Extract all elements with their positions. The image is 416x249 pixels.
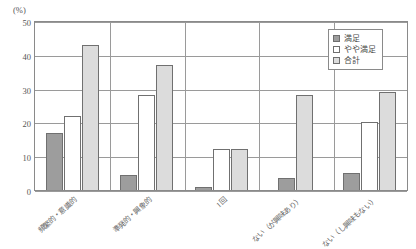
x-axis-label: 頻繁的・意識的: [35, 194, 79, 235]
legend-label: やや満足: [344, 44, 376, 55]
bar: [213, 149, 230, 190]
y-tick-label: 20: [23, 119, 32, 129]
y-tick-label: 30: [23, 86, 32, 96]
legend-swatch-icon: [333, 46, 340, 53]
x-axis-label-cell: ない（し興味もない）: [333, 192, 408, 243]
y-tick-label: 0: [27, 187, 31, 197]
y-tick-label: 50: [23, 18, 32, 28]
y-tick-label: 10: [23, 153, 32, 163]
bar: [138, 95, 155, 190]
bar: [82, 45, 99, 190]
y-tick-label: 40: [23, 52, 32, 62]
legend-item[interactable]: 合計: [333, 55, 376, 66]
bar-group: [184, 22, 258, 190]
bar: [231, 149, 248, 190]
bar: [156, 65, 173, 190]
legend-swatch-icon: [333, 35, 340, 42]
legend-label: 満足: [344, 33, 360, 44]
x-axis-label: 準発的・興象的: [110, 194, 154, 235]
x-axis-label-cell: 準発的・興象的: [109, 192, 184, 243]
bar: [296, 95, 313, 190]
legend-item[interactable]: やや満足: [333, 44, 376, 55]
bar: [64, 116, 81, 190]
x-axis-labels: 頻繁的・意識的準発的・興象的1回ない（が興味あり）ない（し興味もない）: [34, 192, 408, 243]
bar: [195, 187, 212, 190]
bar: [278, 178, 295, 190]
bar: [343, 173, 360, 190]
bar: [46, 133, 63, 190]
legend-label: 合計: [344, 55, 360, 66]
bar-group: [35, 22, 109, 190]
legend-item[interactable]: 満足: [333, 33, 376, 44]
bar-group: [109, 22, 183, 190]
legend: 満足やや満足合計: [328, 29, 383, 70]
x-axis-label-cell: ない（が興味あり）: [258, 192, 333, 243]
legend-swatch-icon: [333, 57, 340, 64]
x-axis-label-cell: 1回: [184, 192, 259, 243]
bar: [379, 92, 396, 190]
bar: [361, 122, 378, 190]
x-axis-label-cell: 頻繁的・意識的: [34, 192, 109, 243]
x-axis-label: 1回: [213, 194, 228, 209]
y-axis-unit-label: (%): [13, 5, 26, 15]
bar-group: [258, 22, 332, 190]
bar: [120, 175, 137, 190]
